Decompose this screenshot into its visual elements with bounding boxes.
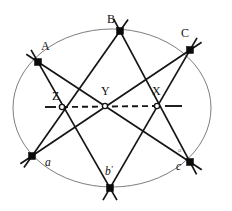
point-label-Y: Y <box>101 84 110 98</box>
chord-C-to-b <box>103 38 197 200</box>
intersection-marker-X <box>154 103 159 108</box>
faint-mark-near-c: a <box>178 146 182 154</box>
point-label-B: B <box>107 12 115 26</box>
point-label-A: A <box>41 39 50 53</box>
point-label-C: C <box>181 26 189 40</box>
axis-dashed-segment <box>62 106 157 107</box>
figure-canvas: ABCab'cZYX a <box>0 0 232 211</box>
point-label-X: X <box>152 84 161 98</box>
point-label-prime-b: ' <box>111 164 114 174</box>
point-label-a: a <box>45 156 51 168</box>
vertex-marker-B <box>117 28 124 35</box>
point-label-c: c <box>176 160 181 172</box>
vertex-marker-c <box>187 159 194 166</box>
vertex-marker-a <box>29 153 36 160</box>
vertex-marker-C <box>187 47 194 54</box>
point-label-Z: Z <box>52 89 59 103</box>
chord-C-to-a <box>20 42 201 164</box>
intersection-marker-Z <box>59 104 64 109</box>
chord-A-to-c <box>26 54 201 169</box>
chord-B-to-a <box>24 20 128 168</box>
vertex-marker-b <box>107 185 114 192</box>
vertex-marker-A <box>35 59 42 66</box>
geometry-diagram: ABCab'cZYX a <box>0 0 232 211</box>
point-label-b: b' <box>105 164 114 177</box>
intersection-marker-Y <box>102 103 107 108</box>
chord-A-to-b <box>31 50 117 200</box>
